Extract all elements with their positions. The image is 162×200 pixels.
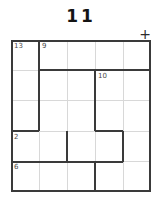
grid-cell[interactable]	[11, 101, 39, 131]
grid-cell[interactable]	[39, 131, 67, 161]
grid-cell[interactable]	[39, 162, 67, 192]
grid-cell[interactable]	[67, 101, 95, 131]
grid-cell[interactable]	[123, 131, 151, 161]
grid-cell[interactable]	[123, 70, 151, 100]
grid-cell[interactable]	[123, 40, 151, 70]
puzzle-grid[interactable]: 13 9 10 2 6	[11, 40, 151, 192]
grid-cell[interactable]	[123, 162, 151, 192]
grid-cell[interactable]	[95, 40, 123, 70]
grid-cell[interactable]	[11, 70, 39, 100]
grid-cell[interactable]	[95, 131, 123, 161]
grid-cell[interactable]	[67, 70, 95, 100]
grid-cell[interactable]	[11, 40, 39, 70]
plus-icon: +	[139, 28, 151, 40]
grid-cell[interactable]	[67, 131, 95, 161]
grid-cell[interactable]	[95, 70, 123, 100]
title-bar: 11	[0, 8, 162, 26]
grid-cell[interactable]	[39, 40, 67, 70]
grid-cell[interactable]	[95, 101, 123, 131]
grid-cell[interactable]	[39, 70, 67, 100]
cell-layer	[11, 40, 151, 192]
page-title: 11	[66, 8, 96, 25]
grid-cell[interactable]	[11, 162, 39, 192]
grid-cell[interactable]	[67, 162, 95, 192]
grid-cell[interactable]	[11, 131, 39, 161]
grid-cell[interactable]	[39, 101, 67, 131]
puzzle-page: 11 +	[0, 0, 162, 200]
grid-cell[interactable]	[95, 162, 123, 192]
grid-cell[interactable]	[67, 40, 95, 70]
grid-cell[interactable]	[123, 101, 151, 131]
